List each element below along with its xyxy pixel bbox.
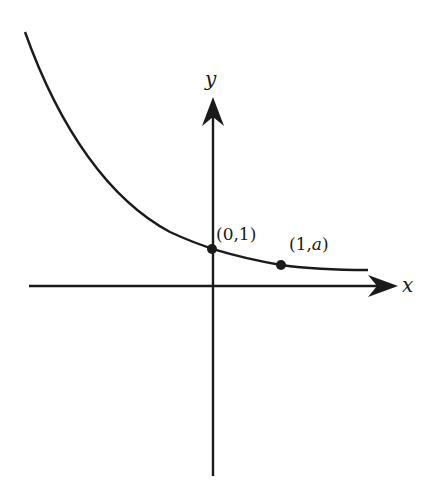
point-1-a-label: (1,a)	[289, 234, 329, 254]
exponential-graph: y x (0,1) (1,a)	[0, 0, 443, 501]
point-0-1-label: (0,1)	[216, 224, 256, 244]
y-axis-label: y	[204, 67, 217, 91]
point-0-1	[207, 244, 217, 254]
point-1-a	[276, 260, 286, 270]
x-axis-label: x	[402, 273, 413, 297]
